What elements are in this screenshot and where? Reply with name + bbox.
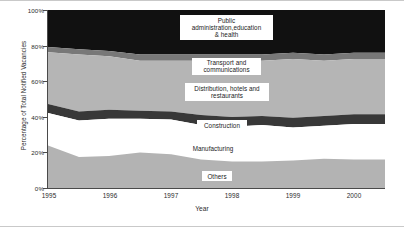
stacked-area-chart-figure: 100% 80% 60% 40% 20% 0% Public admin	[0, 0, 404, 227]
series-callout-construction: Construction	[197, 120, 247, 130]
y-tick-label-100: 100%	[6, 7, 44, 14]
y-tick-label-0: 0%	[6, 185, 44, 192]
x-tick-label-2000: 2000	[334, 192, 374, 199]
figure-bottom-divider	[0, 226, 404, 227]
x-tick-label-1997: 1997	[151, 192, 191, 199]
series-callout-manufacturing: Manufacturing	[186, 143, 240, 153]
x-axis-line	[47, 188, 385, 189]
x-tick-label-1996: 1996	[90, 192, 130, 199]
x-tick-label-1999: 1999	[273, 192, 313, 199]
series-callout-distribution-hotels-restaurants: Distribution, hotels and restaurants	[185, 83, 269, 101]
x-axis-title: Year	[0, 205, 404, 212]
series-callout-public-administration: Public administration,education & health	[180, 15, 273, 40]
x-tick-label-1998: 1998	[212, 192, 252, 199]
y-axis-title: Percentage of Total Notified Vacancies	[20, 21, 27, 171]
series-callout-transport-communications: Transport and communications	[192, 58, 261, 76]
x-tick-label-1995: 1995	[29, 192, 69, 199]
series-callout-others: Others	[202, 171, 232, 181]
figure-top-divider	[0, 0, 404, 1]
